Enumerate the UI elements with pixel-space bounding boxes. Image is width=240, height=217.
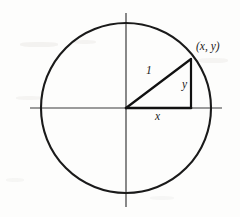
radius-length-label: 1 [146,65,152,77]
unit-circle-figure: (x, y) 1 y x [0,0,240,217]
x-leg-label: x [155,111,160,123]
point-coordinates-label: (x, y) [196,41,220,53]
figure-canvas [0,0,240,217]
y-leg-label: y [182,79,187,91]
